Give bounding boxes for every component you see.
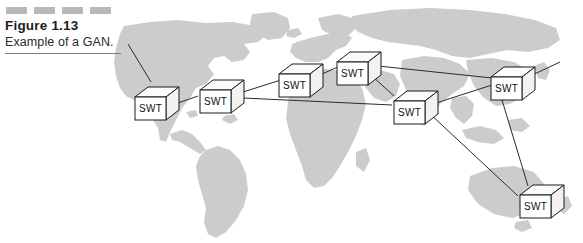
decorative-dash xyxy=(62,7,83,14)
switch-label: SWT xyxy=(398,107,421,118)
decorative-dash xyxy=(6,7,27,14)
switch-node-swt-2[interactable]: SWT xyxy=(196,78,248,118)
decorative-dash xyxy=(90,7,111,14)
decorative-dash xyxy=(34,7,55,14)
switch-label: SWT xyxy=(524,201,547,212)
switch-label: SWT xyxy=(495,83,518,94)
link-swt4-swt6 xyxy=(378,66,492,78)
decorative-dash-row xyxy=(6,7,110,14)
switch-node-swt-4[interactable]: SWT xyxy=(333,50,385,90)
switch-node-swt-7[interactable]: SWT xyxy=(516,183,568,223)
switch-node-swt-3[interactable]: SWT xyxy=(275,62,327,102)
link-stub-left xyxy=(128,44,151,82)
figure-number: Figure 1.13 xyxy=(5,18,78,33)
switch-label: SWT xyxy=(204,96,227,107)
switch-label: SWT xyxy=(341,68,364,79)
switch-node-swt-6[interactable]: SWT xyxy=(487,65,539,105)
figure-caption-block: Figure 1.13 Example of a GAN. xyxy=(0,0,122,60)
figure-caption-text: Example of a GAN. xyxy=(5,35,114,49)
link-swt6-swt7 xyxy=(502,100,528,186)
figure-container: SWT SWT SWT SWT xyxy=(0,0,583,243)
switch-node-swt-1[interactable]: SWT xyxy=(131,85,183,125)
switch-label: SWT xyxy=(283,80,306,91)
switch-node-swt-5[interactable]: SWT xyxy=(390,89,442,129)
switch-label: SWT xyxy=(139,103,162,114)
caption-divider-rule xyxy=(5,53,121,54)
